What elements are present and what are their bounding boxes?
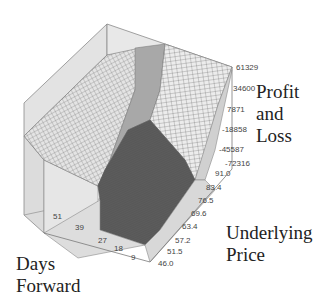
svg-text:46.0: 46.0 xyxy=(158,259,174,268)
x-axis-title: Days Forward xyxy=(16,253,80,297)
svg-text:63.4: 63.4 xyxy=(182,222,198,231)
svg-text:69.6: 69.6 xyxy=(191,209,207,218)
z-axis-title-line: Loss xyxy=(256,125,299,147)
svg-text:34600: 34600 xyxy=(233,84,256,93)
svg-text:83.4: 83.4 xyxy=(206,183,222,192)
y-axis-title-line: Price xyxy=(226,244,313,266)
svg-text:-45587: -45587 xyxy=(219,145,244,154)
z-axis-title: Profit and Loss xyxy=(256,81,299,147)
svg-text:9: 9 xyxy=(131,253,136,262)
svg-text:57.2: 57.2 xyxy=(175,236,191,245)
svg-text:91.0: 91.0 xyxy=(215,169,231,178)
svg-text:-18858: -18858 xyxy=(222,125,247,134)
z-axis-title-line: Profit xyxy=(256,81,299,103)
svg-text:51: 51 xyxy=(53,212,62,221)
svg-text:-72316: -72316 xyxy=(225,159,250,168)
y-axis-title-line: Underlying xyxy=(226,222,313,244)
y-axis-title: Underlying Price xyxy=(226,222,313,266)
svg-text:39: 39 xyxy=(75,223,84,232)
svg-text:51.5: 51.5 xyxy=(167,247,183,256)
x-axis-title-line: Days xyxy=(16,253,80,275)
svg-text:76.5: 76.5 xyxy=(198,196,214,205)
svg-text:18: 18 xyxy=(114,244,123,253)
z-axis-title-line: and xyxy=(256,103,299,125)
x-axis-title-line: Forward xyxy=(16,275,80,297)
svg-text:27: 27 xyxy=(98,236,107,245)
svg-text:7871: 7871 xyxy=(227,105,245,114)
svg-text:61329: 61329 xyxy=(236,63,259,72)
